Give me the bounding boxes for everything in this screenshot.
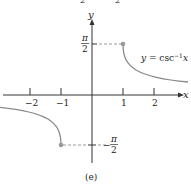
x-tick-label: −2	[25, 98, 38, 108]
y-tick-label-pi-over-2: π 2	[81, 33, 89, 54]
bottom-endpoint	[59, 143, 64, 148]
top-cutoff-fragment: 2	[115, 0, 120, 5]
svg-text:π: π	[81, 33, 89, 43]
svg-text:π: π	[110, 134, 118, 144]
svg-text:2: 2	[111, 145, 117, 155]
svg-text:2: 2	[82, 44, 88, 54]
x-tick-label: −1	[56, 98, 69, 108]
svg-text:−: −	[103, 140, 111, 150]
top-endpoint	[121, 42, 126, 47]
y-axis-label: y	[87, 9, 94, 20]
inverse-cosecant-graph: x y −2 −1 1 2 π 2 − π 2 y = csc−1x (e) 2…	[0, 0, 191, 184]
curve-right-branch	[123, 44, 188, 82]
top-cutoff-fragment: 2	[80, 0, 85, 5]
y-tick-label-neg-pi-over-2: − π 2	[103, 134, 118, 155]
figure-caption: (e)	[85, 172, 97, 182]
function-label: y = csc−1x	[140, 52, 188, 64]
curve-left-branch	[0, 107, 61, 145]
x-axis-label: x	[183, 89, 189, 100]
x-tick-label: 1	[121, 98, 127, 108]
x-tick-label: 2	[152, 98, 158, 108]
